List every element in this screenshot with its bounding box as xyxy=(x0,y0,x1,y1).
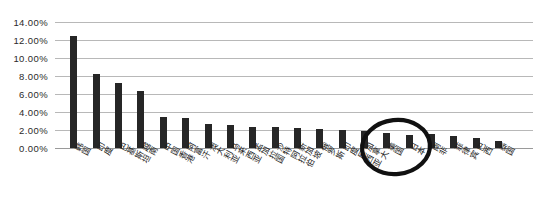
y-axis-tick-label: 2.00% xyxy=(19,125,48,136)
bar xyxy=(70,36,77,149)
bar xyxy=(115,83,122,148)
y-axis-tick-label: 12.00% xyxy=(13,35,48,46)
y-axis-tick-label: 6.00% xyxy=(19,89,48,100)
y-axis-tick-label: 10.00% xyxy=(13,53,48,64)
y-axis-tick-label: 0.00% xyxy=(19,143,48,154)
bar xyxy=(137,91,144,148)
y-axis-tick-label: 8.00% xyxy=(19,71,48,82)
y-axis: 0.00%2.00%4.00%6.00%8.00%10.00%12.00%14.… xyxy=(0,22,52,148)
y-axis-tick-label: 14.00% xyxy=(13,17,48,28)
bar-series xyxy=(55,22,533,148)
x-axis: 韩国印度巴基斯坦越南中国香港阿富汗澳大利亚马来西亚孟加拉国沙特阿拉伯新加坡俄罗斯… xyxy=(55,149,533,222)
bar xyxy=(93,74,100,148)
bar-chart: 0.00%2.00%4.00%6.00%8.00%10.00%12.00%14.… xyxy=(0,0,536,222)
y-axis-tick-label: 4.00% xyxy=(19,107,48,118)
